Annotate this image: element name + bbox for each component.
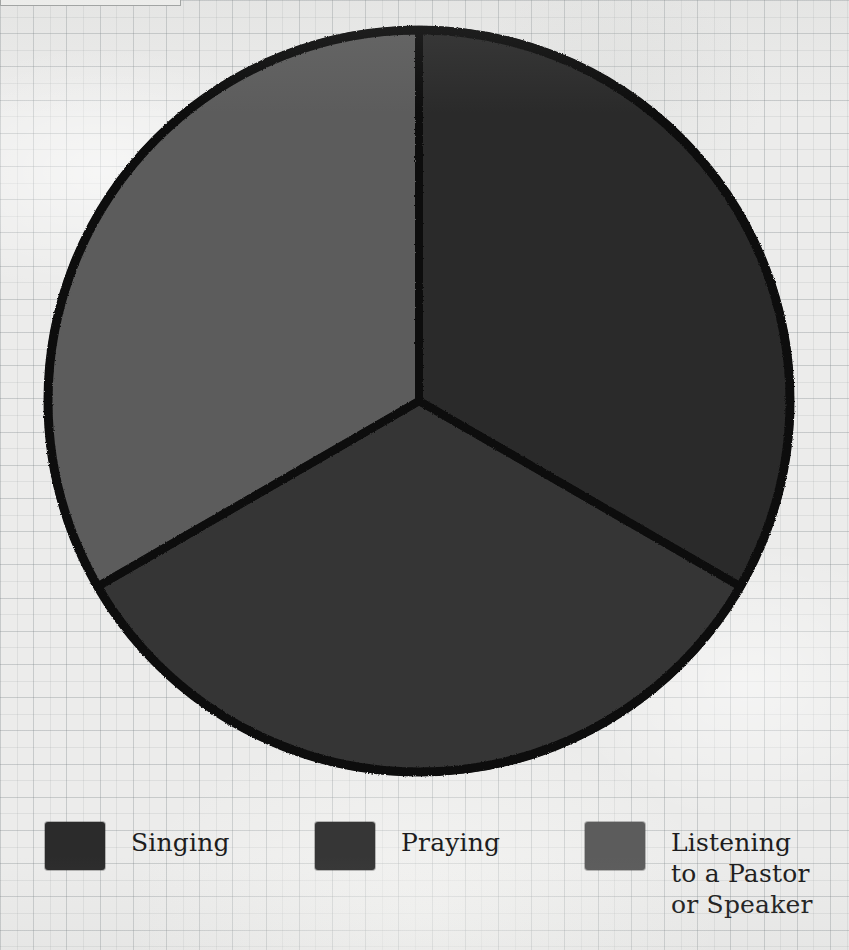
legend-swatch-listening <box>585 822 645 870</box>
legend-swatch-singing <box>45 822 105 870</box>
legend-label-listening: Listening to a Pastor or Speaker <box>671 822 813 920</box>
legend-item-singing[interactable]: Singing <box>45 822 230 870</box>
legend-item-listening[interactable]: Listening to a Pastor or Speaker <box>585 822 813 920</box>
legend-swatch-praying <box>315 822 375 870</box>
legend-label-singing: Singing <box>131 822 230 858</box>
chart-legend: Singing Praying Listening to a Pastor or… <box>0 812 849 950</box>
legend-item-praying[interactable]: Praying <box>315 822 500 870</box>
pie-chart <box>0 0 849 800</box>
pie-chart-svg <box>0 0 849 800</box>
legend-label-praying: Praying <box>401 822 500 858</box>
